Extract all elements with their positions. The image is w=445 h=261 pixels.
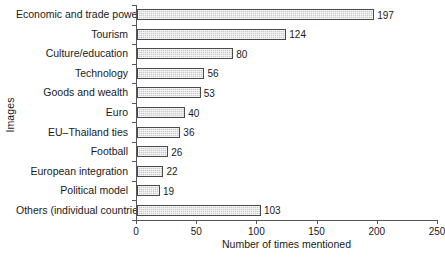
category-label: European integration — [16, 166, 128, 177]
y-axis-tick — [132, 5, 136, 6]
x-axis-tick-label: 250 — [429, 226, 445, 237]
y-axis-tick — [132, 200, 136, 201]
y-axis-tick — [132, 44, 136, 45]
category-label: Economic and trade power — [16, 9, 128, 20]
bar-value-label: 26 — [171, 147, 182, 158]
bar-value-label: 36 — [183, 127, 194, 138]
bar-value-label: 124 — [289, 29, 306, 40]
y-axis-title-text: Images — [4, 97, 16, 132]
bar-value-label: 80 — [236, 49, 247, 60]
bar — [137, 107, 185, 118]
category-label: Technology — [16, 68, 128, 79]
x-axis-tick-label: 50 — [191, 226, 202, 237]
y-axis-tick — [132, 83, 136, 84]
x-axis-tick — [377, 220, 378, 224]
x-axis-title: Number of times mentioned — [136, 238, 437, 250]
x-axis-tick — [256, 220, 257, 224]
bar-value-label: 53 — [204, 88, 215, 99]
category-label: Political model — [16, 185, 128, 196]
x-axis-tick-label: 200 — [368, 226, 385, 237]
bar-value-label: 22 — [166, 166, 177, 177]
bar-value-label: 197 — [377, 10, 394, 21]
bar — [137, 68, 204, 79]
y-axis-tick — [132, 220, 136, 221]
x-axis-tick — [437, 220, 438, 224]
category-label: Euro — [16, 107, 128, 118]
bar — [137, 166, 163, 177]
category-label: Tourism — [16, 29, 128, 40]
bar-value-label: 40 — [188, 108, 199, 119]
bar — [137, 29, 286, 40]
y-axis-tick — [132, 181, 136, 182]
y-axis-tick — [132, 142, 136, 143]
bar — [137, 205, 261, 216]
category-label: Others (individual countries) — [16, 205, 128, 216]
category-label: Culture/education — [16, 48, 128, 59]
bar — [137, 185, 160, 196]
category-label: EU–Thailand ties — [16, 127, 128, 138]
bar-value-label: 56 — [207, 68, 218, 79]
bar-value-label: 19 — [163, 186, 174, 197]
x-axis-tick-label: 150 — [308, 226, 325, 237]
x-axis-line — [136, 220, 438, 221]
x-axis-tick-label: 100 — [248, 226, 265, 237]
bar — [137, 48, 233, 59]
category-label: Goods and wealth — [16, 87, 128, 98]
bar — [137, 127, 180, 138]
category-label: Football — [16, 146, 128, 157]
y-axis-tick — [132, 122, 136, 123]
x-axis-tick-label: 0 — [133, 226, 139, 237]
y-axis-tick — [132, 25, 136, 26]
x-axis-tick — [317, 220, 318, 224]
bar — [137, 146, 168, 157]
bar-value-label: 103 — [264, 205, 281, 216]
plot-area: 0501001502002501971248056534036262219103 — [136, 5, 437, 220]
x-axis-tick — [196, 220, 197, 224]
bar — [137, 9, 374, 20]
x-axis-tick — [136, 220, 137, 224]
y-axis-tick — [132, 103, 136, 104]
category-label-list: Economic and trade powerTourismCulture/e… — [16, 5, 132, 220]
y-axis-tick — [132, 64, 136, 65]
y-axis-tick — [132, 161, 136, 162]
bar — [137, 87, 201, 98]
